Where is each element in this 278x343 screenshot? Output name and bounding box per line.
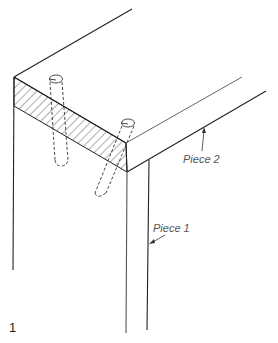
piece-2-label: Piece 2 <box>183 153 220 165</box>
figure-number: 1 <box>9 320 16 335</box>
piece-1-callout: Piece 1 <box>149 222 190 244</box>
end-grain-hatch <box>14 77 127 172</box>
dowel-joint-diagram: Piece 2 Piece 1 1 <box>0 0 278 343</box>
piece-2-board <box>14 9 266 172</box>
piece-2-callout: Piece 2 <box>183 127 220 165</box>
piece-1-label: Piece 1 <box>153 222 190 234</box>
